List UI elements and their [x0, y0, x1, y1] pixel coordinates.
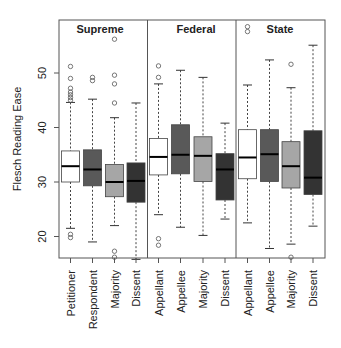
box-appellee	[172, 70, 190, 227]
panel-state: State	[239, 23, 323, 259]
x-tick-label: Majority	[285, 270, 297, 309]
outlier-point	[68, 232, 72, 236]
panel-title: State	[267, 23, 294, 35]
box-majority	[194, 77, 212, 235]
x-tick-label: Respondent	[87, 270, 99, 329]
iqr-box	[216, 154, 234, 200]
outlier-point	[156, 243, 160, 247]
outlier-point	[289, 62, 293, 66]
outlier-point	[156, 236, 160, 240]
box-majority	[106, 37, 124, 259]
x-tick-label: Appellant	[153, 270, 165, 316]
y-tick-label: 20	[36, 230, 48, 242]
outlier-point	[68, 64, 72, 68]
panels: SupremeFederalState	[62, 23, 323, 259]
box-appellee	[261, 60, 279, 249]
x-tick-label: Appellant	[242, 270, 254, 316]
x-tick-label: Dissent	[307, 270, 319, 307]
iqr-box	[106, 165, 124, 197]
y-axis: 20304050	[36, 67, 59, 243]
outlier-point	[68, 76, 72, 80]
box-dissent	[216, 123, 234, 219]
iqr-box	[172, 125, 190, 174]
iqr-box	[261, 130, 279, 182]
outlier-point	[112, 82, 116, 86]
box-appellant	[150, 64, 168, 248]
outlier-point	[112, 73, 116, 77]
outlier-point	[156, 75, 160, 79]
iqr-box	[304, 131, 322, 195]
y-axis-label: Flesch Reading Ease	[11, 87, 23, 192]
y-tick-label: 40	[36, 121, 48, 133]
box-petitioner	[62, 64, 80, 240]
outlier-point	[245, 24, 249, 28]
box-appellant	[239, 24, 257, 222]
x-tick-label: Majority	[197, 270, 209, 309]
boxplot-chart: 20304050 Flesch Reading Ease SupremeFede…	[0, 0, 341, 348]
plot-frame	[59, 20, 325, 258]
plot-border	[59, 20, 325, 258]
x-tick-label: Petitioner	[65, 270, 77, 317]
box-respondent	[84, 75, 102, 242]
outlier-point	[112, 101, 116, 105]
x-tick-label: Dissent	[219, 270, 231, 307]
panel-federal: Federal	[150, 23, 235, 247]
outlier-point	[245, 29, 249, 33]
x-tick-label: Appellee	[264, 270, 276, 313]
panel-title: Federal	[176, 23, 215, 35]
iqr-box	[127, 163, 145, 202]
panel-supreme: Supreme	[62, 23, 146, 259]
x-tick-label: Appellee	[175, 270, 187, 313]
box-dissent	[304, 45, 322, 226]
iqr-box	[239, 130, 257, 179]
x-tick-label: Dissent	[130, 270, 142, 307]
iqr-box	[84, 150, 102, 186]
outlier-point	[112, 249, 116, 253]
iqr-box	[194, 137, 212, 182]
outlier-point	[90, 75, 94, 79]
x-axis: PetitionerRespondentMajorityDissentAppel…	[65, 258, 320, 329]
box-majority	[282, 62, 300, 259]
x-tick-label: Majority	[109, 270, 121, 309]
box-dissent	[127, 103, 145, 259]
y-tick-label: 50	[36, 67, 48, 79]
outlier-point	[156, 64, 160, 68]
outlier-point	[112, 37, 116, 41]
iqr-box	[282, 142, 300, 188]
y-tick-label: 30	[36, 176, 48, 188]
panel-title: Supreme	[76, 23, 123, 35]
